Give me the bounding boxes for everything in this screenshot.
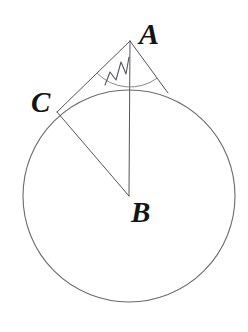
vertex-label-b: B — [131, 198, 150, 227]
geometry-figure: A C B — [0, 0, 248, 332]
segment-AC — [57, 41, 130, 112]
angle-arc-at-A — [97, 73, 157, 87]
vertex-label-c: C — [31, 88, 50, 117]
geometry-canvas — [0, 0, 248, 332]
segment-AB — [129, 41, 130, 196]
vertex-label-a: A — [139, 19, 159, 49]
segment-CB — [57, 112, 129, 196]
